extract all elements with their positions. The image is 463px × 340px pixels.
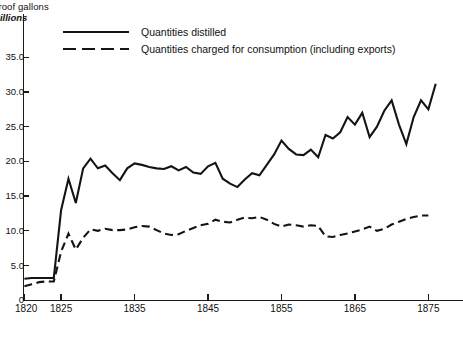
series-line-consumption [24,216,428,287]
plot-area [0,0,463,340]
chart-root: Proof gallons Millions 35.030.025.020.01… [0,0,463,340]
series-line-distilled [24,84,435,279]
figure-caption [30,328,430,336]
